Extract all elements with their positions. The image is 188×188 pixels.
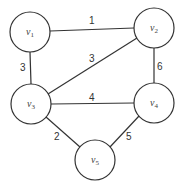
node-v5: v5 [75, 140, 115, 180]
edges [30, 28, 154, 147]
node-subscript: 3 [31, 103, 35, 111]
node-subscript: 1 [30, 31, 34, 39]
weight-v1-v2: 1 [89, 15, 95, 26]
weight-v4-v5: 5 [126, 131, 132, 142]
weight-v2-v4: 6 [157, 61, 163, 72]
node-v2: v2 [134, 8, 174, 48]
node-subscript: 2 [154, 27, 158, 35]
node-subscript: 4 [154, 102, 158, 110]
node-v4: v4 [134, 83, 174, 123]
node-subscript: 5 [95, 159, 99, 167]
weight-v2-v3: 3 [89, 53, 95, 64]
edge-v2-v3 [48, 38, 137, 94]
edge-v3-v5 [46, 117, 80, 147]
edge-v1-v3 [30, 52, 31, 84]
weight-v1-v3: 3 [20, 62, 26, 73]
node-v3: v3 [11, 84, 51, 124]
weight-v3-v4: 4 [89, 92, 95, 103]
weight-v3-v5: 2 [54, 131, 60, 142]
edge-v3-v4 [51, 103, 134, 104]
node-v1: v1 [10, 12, 50, 52]
edge-v1-v2 [50, 28, 134, 31]
edge-v4-v5 [110, 116, 139, 147]
weighted-graph: 1 3 3 6 4 2 5 v1 v2 v3 v4 v5 [0, 0, 188, 188]
